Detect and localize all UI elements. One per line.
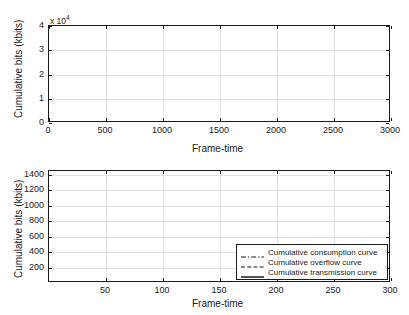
legend-entry: Cumulative overflow curve: [239, 258, 385, 268]
legend-entry: Cumulative transmission curve: [239, 268, 385, 278]
gridline-vertical: [334, 26, 335, 121]
x-tick-mark: [49, 118, 50, 121]
y-tick-mark: [386, 221, 389, 222]
y-tick-label: 1400: [4, 169, 44, 178]
gridline-vertical: [106, 26, 107, 121]
gridline-horizontal: [49, 206, 389, 207]
x-tick-mark: [391, 118, 392, 121]
y-tick-label: 1000: [4, 200, 44, 209]
x-tick-mark: [220, 26, 221, 29]
legend-entry: Cumulative consumption curve: [239, 248, 385, 258]
x-tick-mark: [334, 118, 335, 121]
y-tick-mark: [386, 175, 389, 176]
x-tick-mark: [391, 278, 392, 281]
top-chart: x 104 Cumulative bits (kbits) Frame-time…: [0, 0, 409, 160]
y-tick-mark: [386, 75, 389, 76]
x-tick-mark: [163, 118, 164, 121]
y-tick-mark: [386, 123, 389, 124]
x-tick-label: 150: [211, 286, 226, 295]
gridline-horizontal: [49, 50, 389, 51]
x-tick-mark: [220, 171, 221, 174]
y-tick-mark: [49, 26, 52, 27]
x-tick-mark: [106, 26, 107, 29]
y-tick-mark: [386, 237, 389, 238]
y-tick-label: 1: [4, 93, 44, 102]
y-tick-mark: [49, 123, 52, 124]
y-tick-label: 600: [4, 231, 44, 240]
x-tick-label: 500: [97, 126, 112, 135]
gridline-vertical: [106, 171, 107, 281]
x-tick-label: 100: [154, 286, 169, 295]
x-tick-mark: [106, 118, 107, 121]
legend-line-sample-dashdot: [239, 248, 265, 258]
gridline-vertical: [163, 26, 164, 121]
x-tick-label: 0: [45, 126, 50, 135]
x-tick-mark: [220, 118, 221, 121]
y-tick-mark: [49, 190, 52, 191]
y-tick-mark: [386, 50, 389, 51]
legend-line-sample-solid: [239, 268, 265, 278]
figure-root: x 104 Cumulative bits (kbits) Frame-time…: [0, 0, 409, 315]
y-tick-mark: [49, 252, 52, 253]
x-tick-mark: [277, 26, 278, 29]
gridline-horizontal: [49, 190, 389, 191]
y-tick-label: 200: [4, 262, 44, 271]
x-tick-label: 300: [382, 286, 397, 295]
x-tick-mark: [277, 118, 278, 121]
y-tick-mark: [49, 221, 52, 222]
y-tick-label: 400: [4, 247, 44, 256]
x-tick-mark: [277, 171, 278, 174]
x-tick-label: 250: [325, 286, 340, 295]
y-tick-mark: [49, 50, 52, 51]
x-tick-mark: [163, 26, 164, 29]
top-chart-x-axis-label: Frame-time: [192, 144, 243, 154]
y-tick-mark: [386, 99, 389, 100]
x-tick-mark: [163, 278, 164, 281]
legend-entry-label: Cumulative overflow curve: [265, 258, 362, 268]
legend-entry-label: Cumulative transmission curve: [265, 268, 377, 278]
x-tick-label: 50: [100, 286, 110, 295]
gridline-vertical: [220, 26, 221, 121]
y-tick-mark: [49, 75, 52, 76]
x-tick-mark: [106, 278, 107, 281]
x-tick-label: 1000: [152, 126, 172, 135]
bottom-chart: Cumulative bits (kbits) Frame-time Cumul…: [0, 160, 409, 315]
y-tick-mark: [49, 237, 52, 238]
gridline-vertical: [163, 171, 164, 281]
x-tick-label: 2000: [266, 126, 286, 135]
gridline-vertical: [220, 171, 221, 281]
bottom-chart-x-axis-label: Frame-time: [192, 299, 243, 309]
gridline-horizontal: [49, 237, 389, 238]
y-tick-mark: [386, 190, 389, 191]
top-chart-y-multiplier: x 104: [50, 13, 70, 26]
legend-entry-label: Cumulative consumption curve: [265, 248, 377, 258]
y-tick-label: 1200: [4, 185, 44, 194]
y-tick-label: 2: [4, 69, 44, 78]
gridline-horizontal: [49, 221, 389, 222]
x-tick-mark: [220, 278, 221, 281]
gridline-vertical: [277, 26, 278, 121]
x-tick-label: 2500: [323, 126, 343, 135]
x-tick-mark: [334, 171, 335, 174]
y-tick-mark: [386, 26, 389, 27]
gridline-horizontal: [49, 99, 389, 100]
x-tick-label: 1500: [209, 126, 229, 135]
y-tick-mark: [49, 99, 52, 100]
y-tick-label: 0: [4, 118, 44, 127]
y-tick-label: 4: [4, 21, 44, 30]
y-tick-mark: [49, 268, 52, 269]
x-tick-mark: [163, 171, 164, 174]
gridline-horizontal: [49, 175, 389, 176]
x-tick-mark: [334, 26, 335, 29]
y-tick-mark: [386, 206, 389, 207]
legend-line-sample-dashed: [239, 258, 265, 268]
y-tick-label: 3: [4, 45, 44, 54]
y-tick-label: 800: [4, 216, 44, 225]
top-chart-axes: [48, 25, 390, 122]
x-tick-label: 200: [268, 286, 283, 295]
x-tick-mark: [106, 171, 107, 174]
legend: Cumulative consumption curve Cumulative …: [236, 244, 388, 280]
gridline-horizontal: [49, 75, 389, 76]
y-tick-mark: [49, 206, 52, 207]
x-tick-label: 3000: [380, 126, 400, 135]
